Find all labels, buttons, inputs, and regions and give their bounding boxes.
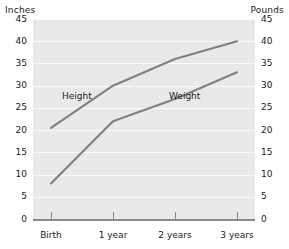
x-tick-label: 3 years <box>220 230 253 240</box>
x-tick-mark <box>237 212 238 219</box>
weight-series-label: Weight <box>169 91 200 101</box>
y-tick-label-right: 0 <box>261 215 281 224</box>
y-tick-label-right: 20 <box>261 126 281 135</box>
x-tick-mark <box>51 212 52 219</box>
y-tick-label-left: 25 <box>7 103 27 112</box>
y-tick-label-left: 35 <box>7 59 27 68</box>
x-tick-label: Birth <box>40 230 62 240</box>
y-tick-label-left: 0 <box>7 215 27 224</box>
x-tick-mark <box>113 212 114 219</box>
y-tick-label-left: 45 <box>7 15 27 24</box>
y-tick-label-right: 10 <box>261 170 281 179</box>
y-tick-label-left: 5 <box>7 192 27 201</box>
x-axis-line <box>33 219 255 221</box>
y-tick-label-left: 15 <box>7 148 27 157</box>
height-series-label: Height <box>62 91 92 101</box>
y-tick-label-right: 40 <box>261 37 281 46</box>
y-tick-label-left: 20 <box>7 126 27 135</box>
y-tick-label-right: 45 <box>261 15 281 24</box>
weight-series-line <box>51 72 237 183</box>
y-tick-label-right: 35 <box>261 59 281 68</box>
y-tick-label-right: 25 <box>261 103 281 112</box>
series-layer <box>33 19 255 219</box>
y-tick-label-right: 30 <box>261 81 281 90</box>
y-tick-label-left: 30 <box>7 81 27 90</box>
growth-chart: Inches Pounds Height Weight 454540403535… <box>0 0 289 249</box>
y-tick-label-right: 15 <box>261 148 281 157</box>
y-tick-label-right: 5 <box>261 192 281 201</box>
plot-area: Height Weight <box>33 19 255 219</box>
x-tick-label: 1 year <box>99 230 128 240</box>
x-tick-label: 2 years <box>158 230 191 240</box>
y-tick-label-left: 10 <box>7 170 27 179</box>
y-tick-label-left: 40 <box>7 37 27 46</box>
x-tick-mark <box>175 212 176 219</box>
